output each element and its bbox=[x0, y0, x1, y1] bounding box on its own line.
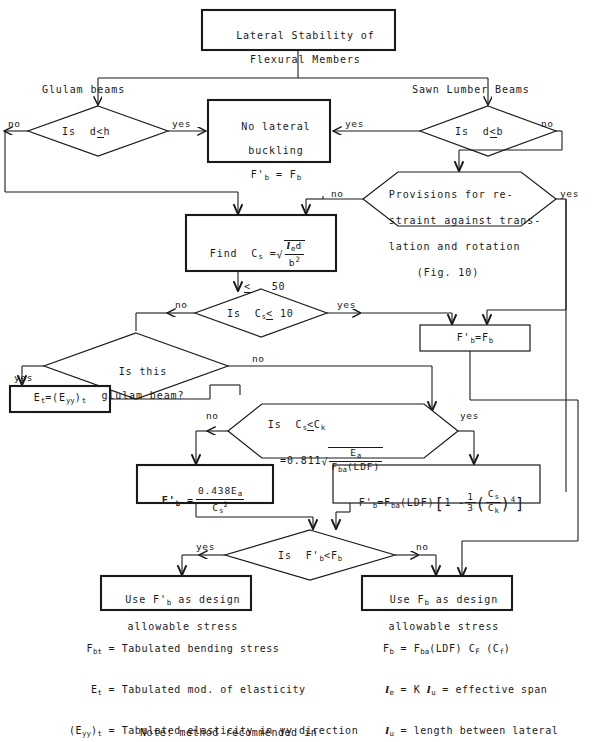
node-is-d-le-b: Is d<b bbox=[455, 126, 503, 138]
node-fb-ldf: F'b=Fba(LDF)[1 -13(CsCk)4] bbox=[345, 477, 535, 516]
edge-label-sawn-no: no bbox=[541, 118, 554, 129]
edge-label-prov-no: no bbox=[331, 188, 344, 199]
edge-label-ck-no: no bbox=[206, 410, 219, 421]
footnote-line-1: Note: method recommended in bbox=[140, 726, 353, 739]
sqrt-icon: √ledb2 bbox=[277, 240, 306, 268]
provisions-line-3: lation and rotation bbox=[389, 241, 521, 252]
branch-label-left: Glulam beams bbox=[42, 84, 125, 96]
edge-label-prov-yes: yes bbox=[560, 188, 579, 199]
cs-le-ck-line-1: Is Cs<Ck bbox=[268, 419, 325, 430]
edge-label-ck-yes: yes bbox=[460, 410, 479, 421]
node-find-cs: Find Cs =√ledb2 < 50 bbox=[196, 228, 332, 305]
title-line-2: Flexural Members bbox=[250, 54, 361, 65]
edge-label-final-no: no bbox=[416, 541, 429, 552]
legend-right-def-2: length between lateral bbox=[414, 725, 559, 736]
node-cs-le-ck: Is Cs<Ck =0.811√EaFba(LDF) bbox=[254, 407, 454, 487]
edge-label-glulam-yes: yes bbox=[172, 118, 191, 129]
edge-label-glulam-q-yes: yes bbox=[14, 372, 33, 383]
branch-label-right: Sawn Lumber Beams bbox=[412, 84, 530, 96]
legend-right: Fb = Fba(LDF) CF (Cf) le = K lu = effect… bbox=[368, 618, 598, 742]
node-fb-0438: F'b =0.438EaCs2 bbox=[148, 474, 268, 516]
title-box-text: Lateral Stability of Flexural Members bbox=[202, 18, 395, 66]
edge-label-glulam-no: no bbox=[8, 118, 21, 129]
legend-left-def-0: Tabulated bending stress bbox=[122, 643, 280, 654]
no-buckling-line-3: F'b = Fb bbox=[251, 169, 301, 180]
node-fb-lt-fb: Is F'b<Fb bbox=[278, 550, 342, 565]
edge-label-glulam-q-no: no bbox=[252, 353, 265, 364]
edge-label-cs10-no: no bbox=[175, 299, 188, 310]
node-is-d-le-h: Is d<h bbox=[62, 126, 110, 138]
node-et-eyy: Et=(Eyy)t bbox=[10, 392, 110, 407]
edge-label-cs10-yes: yes bbox=[337, 299, 356, 310]
node-cs-le-10: Is Cs< 10 bbox=[227, 308, 294, 323]
edge-label-sawn-yes: yes bbox=[345, 118, 364, 129]
legend-left-row: Fbt = Tabulated bending stress bbox=[50, 643, 350, 659]
edge-label-final-yes: yes bbox=[196, 541, 215, 552]
sqrt-icon-2: √EaFba(LDF) bbox=[322, 447, 384, 475]
no-buckling-line-1: No lateral bbox=[241, 121, 310, 132]
use-fprime-line-1: Use F'b as design bbox=[125, 594, 240, 605]
legend-right-row: le = K lu = effective span bbox=[368, 684, 598, 700]
legend-right-row: Fb = Fba(LDF) CF (Cf) bbox=[368, 643, 598, 659]
node-fb-eq-fb: F'b=Fb bbox=[420, 332, 530, 347]
provisions-line-2: straint against trans- bbox=[389, 215, 541, 226]
legend-left-def-1: Tabulated mod. of elasticity bbox=[122, 684, 306, 695]
legend-right-row: lu = length between lateral bbox=[368, 725, 598, 741]
use-fb-line-1: Use Fb as design bbox=[390, 594, 498, 605]
provisions-line-4: (Fig. 10) bbox=[417, 267, 479, 278]
is-glulam-line-2: glulam beam? bbox=[101, 390, 184, 401]
title-line-1: Lateral Stability of bbox=[236, 30, 374, 41]
no-buckling-line-2: buckling bbox=[248, 145, 303, 156]
footnote: Note: method recommended in App.0 (NDS) … bbox=[140, 700, 353, 742]
provisions-line-1: Provisions for re- bbox=[389, 189, 514, 200]
flowchart-figure: Lateral Stability of Flexural Members Gl… bbox=[0, 0, 598, 742]
node-no-buckling: No lateral buckling F'b = Fb bbox=[208, 109, 330, 184]
node-provisions: Provisions for re- straint against trans… bbox=[375, 175, 507, 279]
is-glulam-line-1: Is this bbox=[119, 366, 167, 377]
legend-left-row: Et = Tabulated mod. of elasticity bbox=[50, 684, 350, 700]
find-cs-label: Find Cs = bbox=[210, 248, 277, 259]
